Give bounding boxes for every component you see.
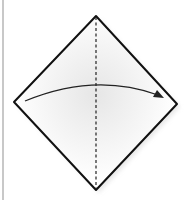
paper-square xyxy=(14,16,177,190)
origami-diagram xyxy=(0,0,187,200)
